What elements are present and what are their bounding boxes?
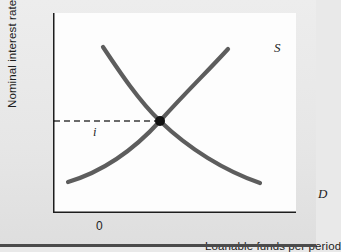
origin-label: 0 bbox=[96, 219, 103, 233]
demand-curve-label: D bbox=[318, 186, 327, 202]
plot-area: Nominal interest rate Loanable funds per… bbox=[53, 13, 296, 213]
equilibrium-rate-label: i bbox=[93, 125, 96, 140]
demand-curve bbox=[103, 47, 260, 183]
equilibrium-point bbox=[155, 116, 165, 126]
supply-demand-chart bbox=[53, 13, 296, 213]
supply-curve-label: S bbox=[274, 40, 281, 56]
bottom-rule bbox=[0, 244, 316, 247]
y-axis-title: Nominal interest rate bbox=[6, 0, 18, 108]
supply-curve bbox=[68, 49, 228, 182]
